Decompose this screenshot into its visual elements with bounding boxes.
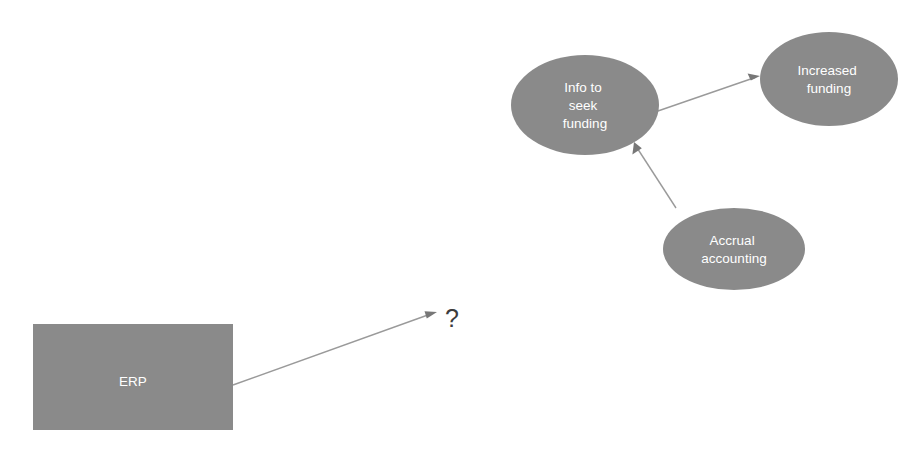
connector-line bbox=[637, 147, 677, 208]
connector-line bbox=[233, 314, 432, 386]
diagram-canvas: ERP Info to seek funding Increased fundi… bbox=[0, 0, 921, 458]
node-erp-label: ERP bbox=[119, 374, 147, 389]
node-accrual-accounting-shape bbox=[663, 208, 805, 290]
node-info-to-seek-funding-label: Info to seek funding bbox=[563, 80, 607, 131]
question-mark-annotation: ? bbox=[445, 304, 459, 332]
connector-accrual-to-info[interactable] bbox=[632, 142, 676, 208]
node-increased-funding-shape bbox=[760, 32, 898, 126]
node-accrual-accounting[interactable]: Accrual accounting bbox=[663, 208, 805, 290]
node-increased-funding[interactable]: Increased funding bbox=[760, 32, 898, 126]
connector-info-to-increased[interactable] bbox=[655, 74, 760, 112]
node-info-to-seek-funding[interactable]: Info to seek funding bbox=[511, 55, 659, 155]
node-erp[interactable]: ERP bbox=[33, 324, 233, 430]
connector-erp-to-question[interactable] bbox=[233, 311, 437, 385]
connector-line bbox=[655, 78, 755, 113]
diagram-svg: ERP Info to seek funding Increased fundi… bbox=[0, 0, 921, 458]
arrowhead-icon bbox=[425, 311, 438, 318]
